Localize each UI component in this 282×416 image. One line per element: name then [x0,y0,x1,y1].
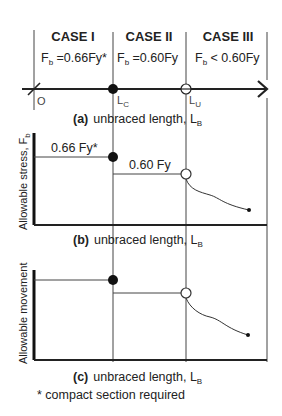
footnote: * compact section required [37,388,185,402]
movement-decay-curve [186,298,248,335]
level-060-label: 0.60 Fy [129,158,171,172]
panel-b: 0.66 Fy* 0.60 Fy Allowable stress, Fb (b… [17,133,267,249]
panel-c-caption: (c)unbraced length, LB [73,370,202,386]
lc-point [108,84,118,94]
movement-lc-point [108,275,118,285]
stress-lc-point [108,152,118,162]
case-1-title: CASE I [51,29,94,44]
stress-end-point [247,208,251,212]
case-headers: CASE I CASE II CASE III Fb =0.66Fy* Fb =… [41,29,260,67]
region-dividers [34,30,267,362]
case-2-title: CASE II [126,29,173,44]
panel-b-caption: (b)unbraced length, LB [73,233,203,249]
case-2-equation: Fb =0.60Fy [117,51,179,67]
panel-a-caption: (a)unbraced length, LB [73,112,202,128]
stress-decay-curve [186,179,249,210]
lc-label: LC [117,94,129,109]
panel-a: O LC LU (a)unbraced length, LB [22,81,267,128]
beam-design-diagram: CASE I CASE II CASE III Fb =0.66Fy* Fb =… [0,0,282,416]
case-1-equation: Fb =0.66Fy* [41,51,107,67]
movement-end-point [246,333,250,337]
panel-b-y-label: Allowable stress, Fb [17,133,32,230]
panel-c-y-label: Allowable movement [17,263,29,365]
movement-lu-point [181,288,191,298]
panel-c: Allowable movement (c)unbraced length, L… [17,263,267,387]
origin-label: O [37,95,46,107]
level-066-label: 0.66 Fy* [51,141,98,155]
lu-label: LU [189,94,201,109]
stress-lu-point [181,169,191,179]
case-3-equation: Fb < 0.60Fy [195,51,260,67]
case-3-title: CASE III [203,29,254,44]
